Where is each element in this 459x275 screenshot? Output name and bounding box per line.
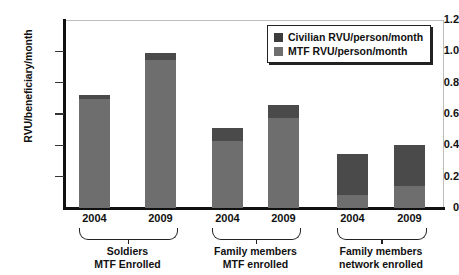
legend-label-civilian: Civilian RVU/person/month: [288, 31, 423, 43]
y-tick-label: 0.6: [413, 107, 459, 119]
y-tick-mark: [55, 51, 64, 53]
x-tick-label: 2009: [254, 212, 314, 224]
legend-swatch-mtf-icon: [274, 47, 283, 56]
bar-segment-civilian: [145, 53, 176, 60]
bar-2004-4: [337, 154, 368, 208]
bar-2004-2: [212, 128, 243, 208]
y-tick-mark: [55, 82, 64, 84]
group-label: SoldiersMTF Enrolled: [58, 245, 198, 270]
y-tick-mark: [55, 113, 64, 115]
x-tick-label: 2009: [380, 212, 440, 224]
bar-segment-civilian: [394, 145, 425, 186]
x-tick-label: 2004: [323, 212, 383, 224]
group-brace-stem: [256, 239, 258, 244]
bar-segment-mtf: [212, 141, 243, 208]
y-tick-mark: [55, 176, 64, 178]
x-tick-label: 2009: [131, 212, 191, 224]
bar-segment-civilian: [268, 105, 299, 118]
x-axis-line: [63, 207, 445, 210]
group-label-line1: Family members: [311, 245, 451, 258]
bar-segment-mtf: [145, 60, 176, 208]
group-label-line1: Family members: [186, 245, 326, 258]
bar-segment-mtf: [79, 99, 110, 208]
legend-item-civilian: Civilian RVU/person/month: [274, 30, 423, 44]
bar-2009-5: [394, 145, 425, 208]
y-tick-label: 1.2: [413, 13, 459, 25]
legend-swatch-civilian-icon: [274, 33, 283, 42]
x-tick-label: 2004: [65, 212, 125, 224]
group-label: Family membersMTF enrolled: [186, 245, 326, 270]
group-label-line1: Soldiers: [58, 245, 198, 258]
x-tick-label: 2004: [198, 212, 258, 224]
legend-label-mtf: MTF RVU/person/month: [288, 45, 407, 57]
legend-item-mtf: MTF RVU/person/month: [274, 44, 423, 58]
bar-2004-0: [79, 95, 110, 208]
bar-segment-mtf: [394, 186, 425, 208]
bar-segment-mtf: [268, 118, 299, 208]
chart-legend: Civilian RVU/person/month MTF RVU/person…: [267, 25, 431, 63]
y-tick-label: 0.8: [413, 76, 459, 88]
group-label-line2: MTF Enrolled: [58, 258, 198, 271]
bar-2009-1: [145, 53, 176, 208]
bar-segment-civilian: [212, 128, 243, 141]
bar-segment-mtf: [337, 195, 368, 208]
group-label: Family membersnetwork enrolled: [311, 245, 451, 270]
bar-segment-civilian: [337, 154, 368, 196]
group-label-line2: MTF enrolled: [186, 258, 326, 271]
chart-container: RVU/beneficiary/month 00.20.40.60.81.01.…: [0, 0, 459, 275]
y-axis-title: RVU/beneficiary/month: [22, 6, 34, 166]
group-brace-stem: [128, 239, 130, 244]
bar-2009-3: [268, 105, 299, 208]
group-label-line2: network enrolled: [311, 258, 451, 271]
group-brace-stem: [381, 239, 383, 244]
y-tick-mark: [55, 145, 64, 147]
